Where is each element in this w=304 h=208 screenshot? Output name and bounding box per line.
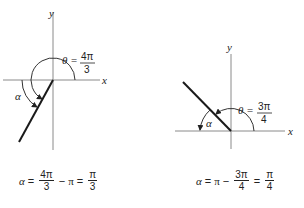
left-terminal-ray [19, 80, 53, 142]
right-theta-label: θ = [238, 104, 254, 116]
left-theta-numerator: 4π [81, 51, 94, 62]
left-eq-equals-2: = [77, 175, 83, 187]
right-eq-fraction-1: 3π 4 [234, 169, 248, 192]
right-theta-numerator: 3π [258, 101, 271, 112]
right-eq-equals-1: = [205, 175, 211, 187]
right-eq-alpha: α [196, 175, 202, 187]
right-diagram: y x α θ = 3π 4 [175, 41, 293, 149]
right-alpha-label: α [206, 117, 212, 129]
left-eq-minus: − [59, 175, 65, 187]
right-eq-fraction-2: π 4 [265, 169, 274, 192]
right-eq-equals-2: = [254, 175, 260, 187]
left-diagram: y x α θ = 4π 3 [3, 7, 107, 150]
left-eq-alpha: α [19, 175, 25, 187]
right-eq-minus: − [223, 175, 229, 187]
left-theta-denominator: 3 [84, 64, 90, 75]
left-y-label: y [48, 7, 54, 19]
left-theta-label: θ = [62, 54, 78, 66]
left-alpha-label: α [15, 90, 21, 102]
left-eq-equals-1: = [28, 175, 34, 187]
left-equation: α = 4π 3 − π = π 3 [19, 169, 99, 192]
left-eq-fraction-1: 4π 3 [39, 169, 53, 192]
right-theta-denominator: 4 [261, 114, 267, 125]
right-x-label: x [287, 125, 293, 137]
right-equation: α = π − 3π 4 = π 4 [196, 169, 276, 192]
left-eq-pi: π [68, 175, 74, 187]
left-eq-fraction-2: π 3 [88, 169, 97, 192]
right-eq-pi: π [214, 175, 220, 187]
left-x-label: x [101, 74, 107, 86]
right-y-label: y [226, 41, 232, 53]
left-alpha-arc [22, 80, 37, 107]
